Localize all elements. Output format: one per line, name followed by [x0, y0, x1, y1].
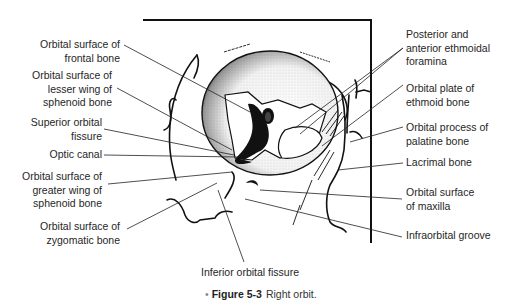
figure-caption: •Figure 5-3Right orbit.: [205, 288, 317, 300]
label-line: ethmoid bone: [406, 96, 474, 110]
label-inferior-orbital-fissure: Inferior orbital fissure: [201, 266, 299, 280]
label-line: sphenoid bone: [22, 197, 102, 211]
label-superior-orbital-fissure: Superior orbital fissure: [31, 116, 102, 143]
label-line: frontal bone: [40, 52, 120, 66]
label-line: fissure: [31, 130, 102, 144]
label-line: Inferior orbital fissure: [201, 266, 299, 280]
label-orbital-surface-greater-wing: Orbital surface of greater wing of sphen…: [22, 170, 102, 211]
label-line: Infraorbital groove: [406, 229, 491, 243]
label-line: Posterior and: [406, 28, 490, 42]
label-line: greater wing of: [22, 184, 102, 198]
label-line: Orbital surface of: [40, 220, 120, 234]
label-line: zygomatic bone: [40, 234, 120, 248]
label-line: palatine bone: [406, 135, 488, 149]
label-lacrimal-bone: Lacrimal bone: [406, 156, 472, 170]
figure-number: Figure 5-3: [212, 288, 262, 300]
label-line: Optic canal: [49, 148, 102, 162]
label-line: Orbital process of: [406, 121, 488, 135]
label-line: Orbital surface of: [32, 69, 112, 83]
label-line: anterior ethmoidal: [406, 42, 490, 56]
label-line: Lacrimal bone: [406, 156, 472, 170]
label-line: lesser wing of: [32, 83, 112, 97]
label-ethmoidal-foramina: Posterior and anterior ethmoidal foramin…: [406, 28, 490, 69]
label-line: foramina: [406, 55, 490, 69]
label-line: sphenoid bone: [32, 96, 112, 110]
label-line: Superior orbital: [31, 116, 102, 130]
label-orbital-surface-frontal-bone: Orbital surface of frontal bone: [40, 38, 120, 65]
caption-text: Right orbit.: [266, 288, 317, 300]
label-optic-canal: Optic canal: [49, 148, 102, 162]
label-line: Orbital surface of: [22, 170, 102, 184]
label-orbital-surface-lesser-wing: Orbital surface of lesser wing of spheno…: [32, 69, 112, 110]
label-orbital-surface-maxilla: Orbital surface of maxilla: [406, 186, 474, 213]
label-orbital-process-palatine-bone: Orbital process of palatine bone: [406, 121, 488, 148]
label-line: Orbital surface of: [40, 38, 120, 52]
caption-bullet: •: [205, 288, 209, 300]
label-infraorbital-groove: Infraorbital groove: [406, 229, 491, 243]
label-line: Orbital surface: [406, 186, 474, 200]
label-line: of maxilla: [406, 200, 474, 214]
label-line: Orbital plate of: [406, 82, 474, 96]
label-orbital-surface-zygomatic-bone: Orbital surface of zygomatic bone: [40, 220, 120, 247]
label-orbital-plate-ethmoid-bone: Orbital plate of ethmoid bone: [406, 82, 474, 109]
